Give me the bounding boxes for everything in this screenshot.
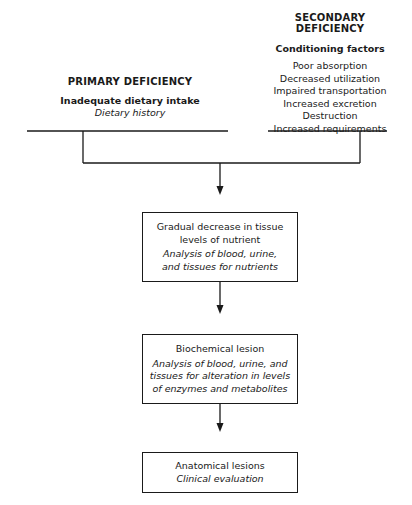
stage-box-anatomical-lesions: Anatomical lesions Clinical evaluation bbox=[142, 452, 298, 493]
stage-box-tissue-decrease: Gradual decrease in tissue levels of nut… bbox=[142, 212, 298, 282]
factor-item: Destruction bbox=[262, 110, 398, 123]
factor-list: Poor absorption Decreased utilization Im… bbox=[262, 60, 398, 135]
factor-item: Poor absorption bbox=[262, 60, 398, 73]
stage-assessment: Analysis of blood, urine, and tissues fo… bbox=[162, 248, 278, 273]
stage-title: Anatomical lesions bbox=[175, 460, 264, 473]
stage-title-line: Gradual decrease in tissue bbox=[157, 221, 284, 234]
stage-title-line: Biochemical lesion bbox=[176, 343, 265, 356]
factor-item: Increased excretion bbox=[262, 98, 398, 111]
primary-cause: Inadequate dietary intake bbox=[50, 95, 210, 106]
primary-title: PRIMARY DEFICIENCY bbox=[50, 76, 210, 87]
stage-assessment-line: of enzymes and metabolites bbox=[150, 383, 290, 396]
stage-assessment-line: Analysis of blood, urine, and bbox=[150, 358, 290, 371]
stage-assessment-line: Analysis of blood, urine, bbox=[162, 248, 278, 261]
secondary-title: SECONDARY DEFICIENCY bbox=[262, 12, 398, 34]
stage-title: Biochemical lesion bbox=[176, 343, 265, 356]
stage-title-line: levels of nutrient bbox=[157, 234, 284, 247]
stage-assessment: Analysis of blood, urine, and tissues fo… bbox=[150, 358, 290, 396]
primary-deficiency-block: PRIMARY DEFICIENCY Inadequate dietary in… bbox=[50, 76, 210, 120]
factor-item: Increased requirements bbox=[262, 123, 398, 136]
primary-assessment: Dietary history bbox=[50, 107, 210, 120]
stage-title-line: Anatomical lesions bbox=[175, 460, 264, 473]
stage-box-biochemical-lesion: Biochemical lesion Analysis of blood, ur… bbox=[142, 334, 298, 404]
conditioning-factors-subtitle: Conditioning factors bbox=[262, 43, 398, 54]
stage-assessment-line: and tissues for nutrients bbox=[162, 261, 278, 274]
stage-title: Gradual decrease in tissue levels of nut… bbox=[157, 221, 284, 246]
stage-assessment-line: tissues for alteration in levels bbox=[150, 370, 290, 383]
secondary-deficiency-block: SECONDARY DEFICIENCY Conditioning factor… bbox=[262, 12, 398, 135]
stage-assessment-line: Clinical evaluation bbox=[176, 473, 263, 486]
factor-item: Decreased utilization bbox=[262, 73, 398, 86]
factor-item: Impaired transportation bbox=[262, 85, 398, 98]
stage-assessment: Clinical evaluation bbox=[176, 473, 263, 486]
